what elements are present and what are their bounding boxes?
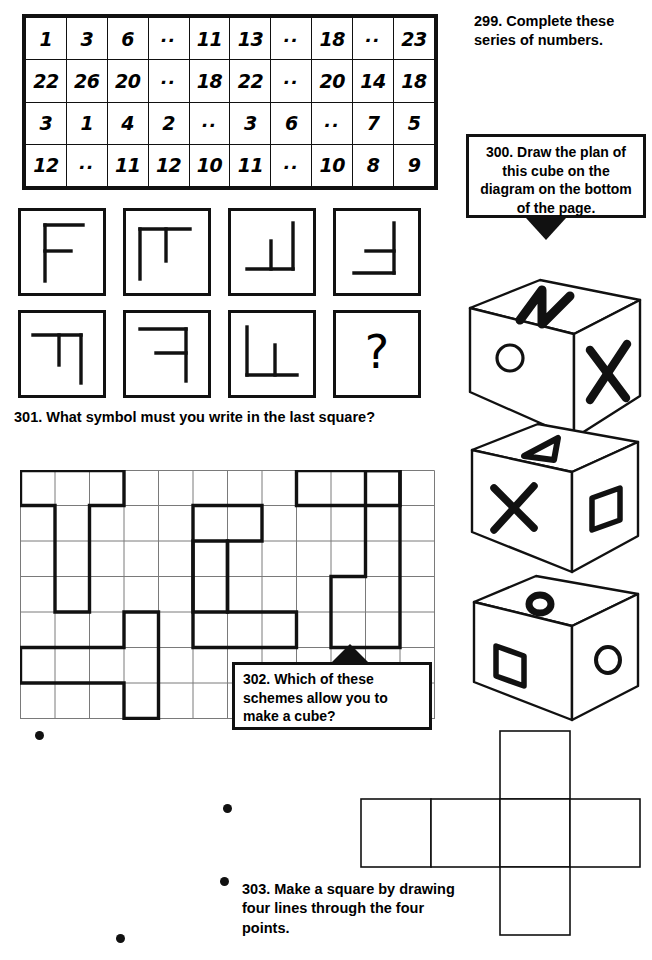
number-cell: 10 xyxy=(189,144,230,186)
number-cell: 7 xyxy=(353,102,394,144)
number-cell: 11 xyxy=(230,144,271,186)
f-shape-icon xyxy=(21,211,103,293)
instruction-301-text: What symbol must you write in the last s… xyxy=(46,409,375,425)
callout-300: 300. Draw the plan of this cube on the d… xyxy=(466,134,646,218)
point-4 xyxy=(116,934,125,943)
number-cell: 9 xyxy=(394,144,435,186)
symbol-square-3 xyxy=(228,208,316,296)
number-cell: 2 xyxy=(148,102,189,144)
t-rotated-shape-icon xyxy=(126,211,208,293)
number-cell: .. xyxy=(271,144,312,186)
number-cell: .. xyxy=(312,102,353,144)
arrow-down-icon xyxy=(526,218,566,240)
table-row: 3142..36..75 xyxy=(26,102,435,144)
instruction-300-number: 300. xyxy=(486,144,513,160)
number-cell: 8 xyxy=(353,144,394,186)
number-series-table: 136..1113..18..23222620..1822..201418314… xyxy=(22,14,438,190)
number-cell: 18 xyxy=(394,60,435,102)
point-2 xyxy=(223,804,232,813)
number-cell: .. xyxy=(148,60,189,102)
table-row: 136..1113..18..23 xyxy=(26,18,435,60)
number-cell: .. xyxy=(271,18,312,60)
symbol-square-5 xyxy=(18,310,106,398)
number-cell: 3 xyxy=(66,18,107,60)
number-cell: 13 xyxy=(230,18,271,60)
number-cell: 1 xyxy=(26,18,67,60)
instruction-299: 299. Complete these series of numbers. xyxy=(474,12,649,50)
symbol-square-7 xyxy=(228,310,316,398)
number-cell: 12 xyxy=(26,144,67,186)
number-cell: .. xyxy=(66,144,107,186)
symbol-square-2 xyxy=(123,208,211,296)
number-cell: .. xyxy=(189,102,230,144)
puzzle-page: 136..1113..18..23222620..1822..201418314… xyxy=(0,0,652,960)
number-cell: 22 xyxy=(230,60,271,102)
arrow-up-icon xyxy=(330,644,370,664)
number-cell: 22 xyxy=(26,60,67,102)
net-square-bottom xyxy=(500,867,570,935)
number-cell: 20 xyxy=(107,60,148,102)
table-row: 222620..1822..201418 xyxy=(26,60,435,102)
net-square-mid-left xyxy=(431,799,500,867)
number-cell: 18 xyxy=(312,18,353,60)
point-1 xyxy=(35,731,44,740)
number-cell: 3 xyxy=(230,102,271,144)
number-cell: 6 xyxy=(271,102,312,144)
cube-3 xyxy=(462,562,648,724)
corner-t-down-shape-icon xyxy=(21,313,103,395)
callout-302: 302. Which of these schemes allow you to… xyxy=(232,662,432,730)
number-cell: 3 xyxy=(26,102,67,144)
question-mark: ? xyxy=(336,313,418,395)
number-cell: 20 xyxy=(312,60,353,102)
number-cell: 5 xyxy=(394,102,435,144)
number-cell: 4 xyxy=(107,102,148,144)
point-3 xyxy=(220,877,229,886)
number-cell: 14 xyxy=(353,60,394,102)
number-cell: 1 xyxy=(66,102,107,144)
net-square-left xyxy=(361,799,431,867)
f-mirrored-shape-icon xyxy=(126,313,208,395)
number-cell: 26 xyxy=(66,60,107,102)
callout-302-text: 302. Which of these schemes allow you to… xyxy=(235,665,429,731)
table-row: 12..11121011..1089 xyxy=(26,144,435,186)
number-cell: 11 xyxy=(107,144,148,186)
symbol-square-1 xyxy=(18,208,106,296)
cube-2 xyxy=(462,416,648,576)
number-cell: 18 xyxy=(189,60,230,102)
symbol-square-4 xyxy=(333,208,421,296)
number-cell: 12 xyxy=(148,144,189,186)
net-square-right xyxy=(570,799,640,867)
l-t-shape-icon xyxy=(231,313,313,395)
net-square-center xyxy=(500,799,570,867)
number-cell: .. xyxy=(353,18,394,60)
instruction-301: 301. What symbol must you write in the l… xyxy=(14,408,444,427)
number-cell: 23 xyxy=(394,18,435,60)
instruction-303-number: 303. xyxy=(242,881,270,897)
symbol-square-6 xyxy=(123,310,211,398)
instruction-299-number: 299. xyxy=(474,13,502,29)
bottom-left-t-shape-icon xyxy=(231,211,313,293)
instruction-303: 303. Make a square by drawing four lines… xyxy=(242,880,472,938)
symbol-square-8: ? xyxy=(333,310,421,398)
number-cell: 11 xyxy=(189,18,230,60)
net-square-top xyxy=(500,731,570,799)
instruction-302-number: 302. xyxy=(243,671,270,687)
right-t-shape-icon xyxy=(336,211,418,293)
number-cell: .. xyxy=(148,18,189,60)
number-cell: 6 xyxy=(107,18,148,60)
number-table: 136..1113..18..23222620..1822..201418314… xyxy=(25,17,435,187)
number-cell: .. xyxy=(271,60,312,102)
number-cell: 10 xyxy=(312,144,353,186)
instruction-301-number: 301. xyxy=(14,409,42,425)
callout-300-text: 300. Draw the plan of this cube on the d… xyxy=(469,137,643,224)
instruction-303-text: Make a square by drawing four lines thro… xyxy=(242,881,455,936)
